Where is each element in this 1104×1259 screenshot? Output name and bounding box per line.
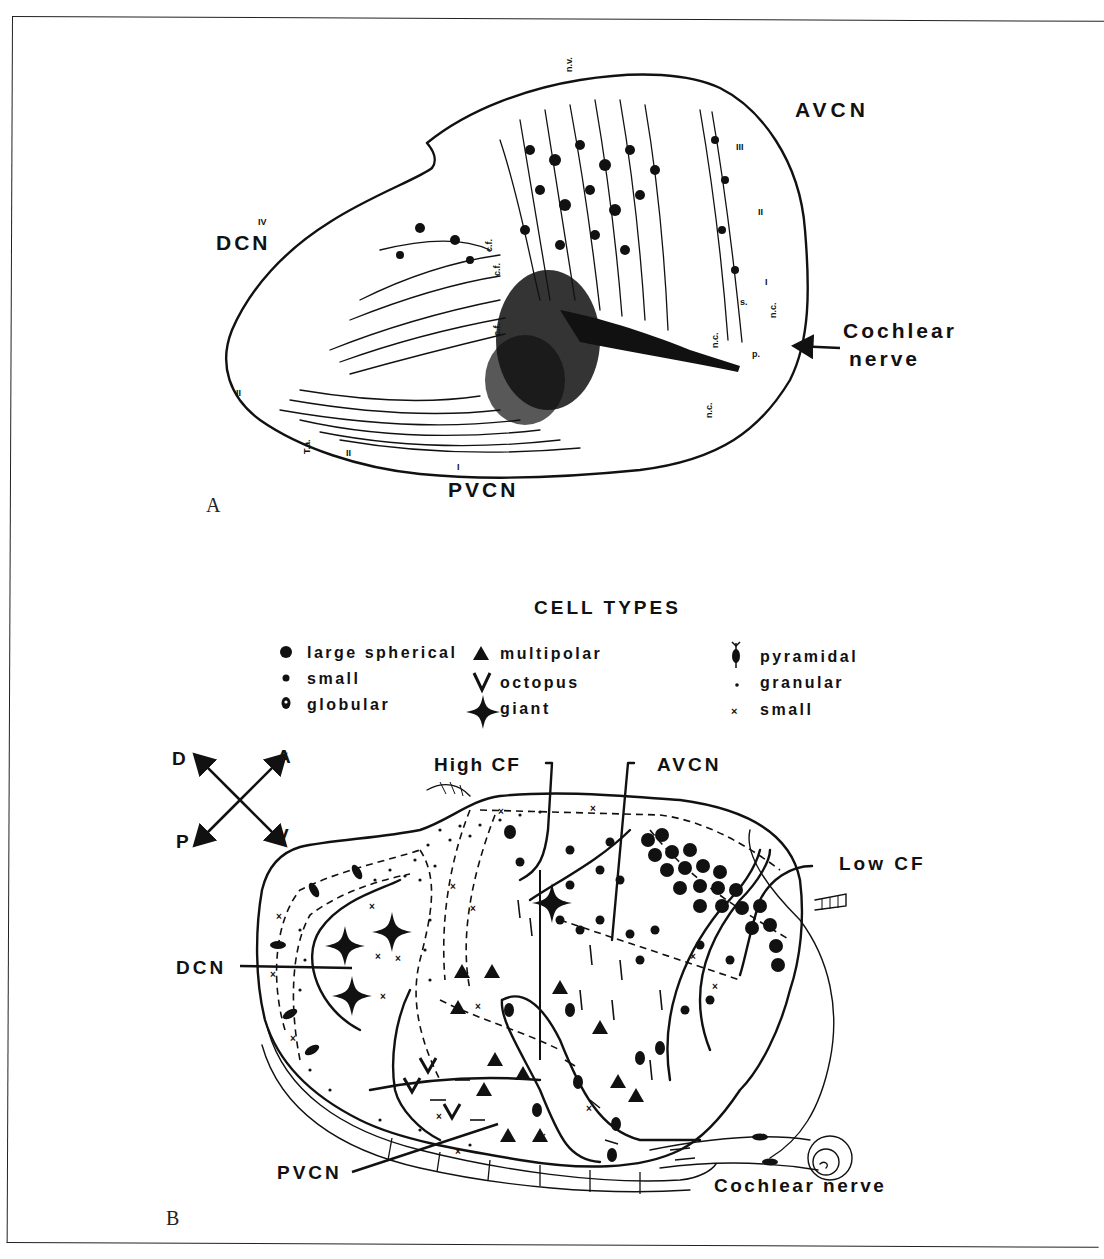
svg-text:×: ×: [436, 1111, 442, 1122]
svg-text:×: ×: [690, 951, 696, 962]
numeral-avcn-ii: II: [758, 207, 763, 217]
svg-text:×: ×: [276, 911, 282, 922]
granular-cells: [298, 810, 541, 1146]
svg-text:×: ×: [369, 901, 375, 912]
label-nerve-a: nerve: [849, 347, 920, 370]
svg-text:×: ×: [380, 991, 386, 1002]
label-dcn-a: DCN: [216, 231, 271, 254]
label-avcn-b: AVCN: [657, 754, 721, 775]
annotation-cf-1: c.f.: [484, 239, 494, 252]
large-spherical-cells: [641, 828, 785, 972]
annotation-nv: n.v.: [564, 57, 574, 72]
orientation-compass: D A P V: [172, 746, 291, 852]
large-spherical-icon: [280, 646, 292, 658]
annotation-cf-3: c.f.: [492, 323, 502, 336]
svg-text:×: ×: [475, 1001, 481, 1012]
high-cf-pointer: [520, 763, 552, 880]
label-avcn-a: AVCN: [795, 98, 869, 121]
panel-b-nucleus-outline: [257, 793, 802, 1166]
label-pvcn-b: PVCN: [277, 1162, 342, 1183]
multipolar-cells: [450, 964, 644, 1142]
right-hatched-strip: [815, 894, 846, 910]
legend-small-b: small: [760, 701, 813, 718]
small-dot-icon: [283, 675, 290, 682]
legend-granular: granular: [760, 674, 844, 691]
legend-large-spherical: large spherical: [307, 644, 457, 661]
legend-multipolar: multipolar: [500, 645, 602, 662]
legend-title: CELL TYPES: [534, 597, 681, 618]
annotation-cf-2: c.f.: [492, 263, 502, 276]
legend-globular: globular: [307, 696, 390, 713]
svg-text:×: ×: [290, 1033, 296, 1044]
legend-pyramidal: pyramidal: [760, 648, 858, 665]
annotation-p: p.: [752, 349, 760, 359]
svg-text:×: ×: [586, 1103, 592, 1114]
svg-text:×: ×: [455, 1146, 461, 1157]
label-cochlear-a: Cochlear: [843, 319, 957, 342]
panel-a-neuron-drawing: [280, 100, 742, 452]
label-pvcn-a: PVCN: [448, 478, 518, 501]
svg-text:×: ×: [590, 803, 596, 814]
panel-b: CELL TYPES large spherical small globula…: [166, 597, 926, 1229]
panel-letter-b: B: [166, 1207, 179, 1229]
annotation-nc-2: n.c.: [768, 302, 778, 318]
panel-a: AVCN DCN PVCN Cochlear nerve n.v. T.a. c…: [206, 57, 957, 516]
giant-cells: [325, 883, 572, 1016]
legend-giant: giant: [500, 700, 551, 717]
numeral-dcn-iv: IV: [258, 217, 267, 227]
small-cross-icon: ×: [731, 705, 737, 717]
giant-star-icon: [466, 695, 500, 729]
panel-letter-a: A: [206, 494, 221, 516]
multipolar-icon: [473, 646, 489, 660]
legend-octopus: octopus: [500, 674, 580, 691]
octopus-icon: [474, 673, 490, 690]
octopus-cells: [404, 1058, 460, 1118]
compass-v: V: [276, 825, 289, 846]
cell-types-legend: CELL TYPES large spherical small globula…: [280, 597, 858, 729]
annotation-nc-1: n.c.: [710, 332, 720, 348]
label-low-cf: Low CF: [839, 853, 926, 874]
svg-text:×: ×: [520, 1071, 526, 1082]
label-cochlear-nerve-b: Cochlear nerve: [714, 1175, 886, 1196]
compass-d: D: [172, 748, 186, 769]
numeral-pvcn-i: I: [457, 462, 460, 472]
avcn-pointer: [612, 763, 634, 940]
svg-text:×: ×: [375, 951, 381, 962]
svg-text:×: ×: [712, 981, 718, 992]
numeral-left-ii: II: [236, 388, 241, 398]
svg-text:×: ×: [470, 903, 476, 914]
label-high-cf: High CF: [434, 754, 521, 775]
compass-a: A: [277, 746, 291, 767]
svg-text:×: ×: [540, 1131, 546, 1142]
svg-text:×: ×: [270, 969, 276, 980]
numeral-avcn-iii: III: [736, 142, 744, 152]
granular-icon: [735, 683, 739, 687]
annotation-nc-3: n.c.: [704, 402, 714, 418]
svg-text:×: ×: [450, 881, 456, 892]
svg-text:×: ×: [395, 953, 401, 964]
label-dcn-b: DCN: [176, 957, 226, 978]
fibre-strokes: [430, 900, 695, 1160]
svg-text:×: ×: [498, 806, 504, 817]
pyramidal-icon: [732, 642, 740, 668]
annotation-s: s.: [740, 297, 748, 307]
numeral-avcn-i: I: [765, 277, 768, 287]
numeral-bottom-ii: II: [346, 448, 351, 458]
compass-p: P: [176, 831, 189, 852]
legend-small-a: small: [307, 670, 360, 687]
top-hatched-strip: [427, 782, 470, 796]
annotation-ta: T.a.: [302, 439, 312, 454]
